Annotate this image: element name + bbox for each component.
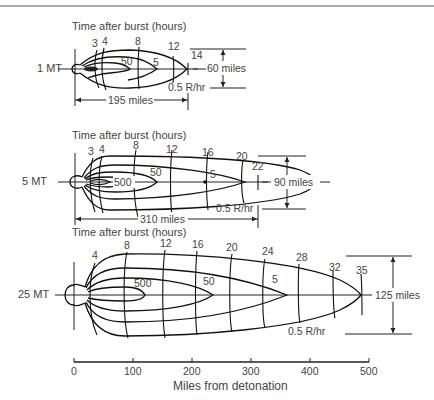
contour-label: 50 [150,166,162,178]
x-tick-label: 100 [124,365,142,377]
time-arc-8 [138,47,139,89]
x-axis: 0 100 200 300 400 500 Miles from detonat… [71,358,378,393]
length-label: 195 miles [108,94,153,106]
panel-title: Time after burst (hours) [72,129,187,141]
time-label: 32 [329,261,341,273]
contour-label: 0.5 R/hr [168,81,206,93]
time-arc-16 [196,251,198,335]
time-label: 8 [133,139,139,151]
x-tick-label: 500 [360,365,378,377]
contour-label: 0.5 R/hr [216,202,254,214]
contour-label: 50 [203,275,215,287]
time-label: 4 [92,249,98,261]
x-tick-label: 0 [71,365,77,377]
contour-core [84,67,98,72]
yield-label: 1 MT [37,62,62,74]
time-label: 12 [168,40,180,52]
time-label: 4 [102,35,108,47]
time-label: 12 [160,237,172,249]
time-label: 22 [252,160,264,172]
time-arc-12 [163,250,165,338]
x-axis-title: Miles from detonation [173,379,288,393]
time-arc-16 [207,152,209,210]
time-arc-24 [263,259,265,328]
contour-label: 5 [210,168,216,180]
time-label: 35 [356,264,368,276]
time-arc-12 [171,150,173,216]
time-label: 28 [296,251,308,263]
time-label: 3 [92,37,98,49]
x-tick-label: 300 [242,365,260,377]
x-tick-label: 200 [183,365,201,377]
yield-label: 25 MT [18,288,49,300]
fallout-diagram: Time after burst (hours) 1 MT 3 4 8 12 1… [0,0,434,400]
length-label: 310 miles [140,213,185,225]
panel-25mt: Time after burst (hours) 25 MT 4 8 12 16… [18,226,434,338]
time-arc-28 [298,264,300,323]
time-label: 20 [236,150,248,162]
contour-label: 500 [134,277,152,289]
time-label: 20 [226,241,238,253]
panel-title: Time after burst (hours) [72,20,187,32]
width-label: 90 miles [274,176,313,188]
contour-label: 5 [272,273,278,285]
time-label: 14 [191,49,203,61]
panel-5mt: Time after burst (hours) 5 MT 3 4 8 12 1… [22,129,330,228]
yield-label: 5 MT [22,175,47,187]
time-label: 8 [135,35,141,47]
contour-500 [88,287,145,301]
contour-label: 5 [153,56,159,68]
width-label: 60 miles [207,62,246,74]
time-label: 12 [166,143,178,155]
time-label: 8 [124,239,130,251]
time-label: 4 [99,143,105,155]
panel-1mt: Time after burst (hours) 1 MT 3 4 8 12 1… [37,20,252,110]
x-tick-label: 400 [301,365,319,377]
time-label: 3 [88,145,94,157]
time-label: 16 [202,146,214,158]
contour-label: 500 [114,176,132,188]
width-label: 125 miles [375,289,420,301]
time-label: 16 [192,238,204,250]
contour-label: 50 [121,55,133,67]
time-label: 24 [262,245,274,257]
time-arc-20 [230,254,232,332]
contour-label: 0.5 R/hr [288,325,326,337]
